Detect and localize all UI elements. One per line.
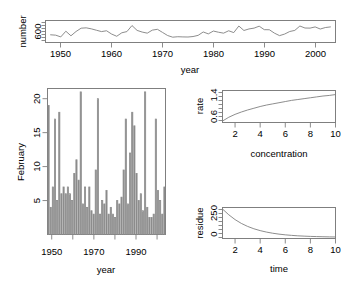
timeseries-xtick-label-1950: 1950 [50, 48, 71, 59]
rate-x-ticks [235, 123, 335, 128]
rate-xtick-label-4: 4 [258, 128, 263, 139]
february-bar [89, 187, 90, 235]
rate-xtick-label-6: 6 [283, 128, 288, 139]
february-bar [87, 207, 88, 234]
residue-y-ticks [219, 210, 223, 238]
february-bar [99, 214, 100, 234]
february-bar [121, 197, 122, 234]
residue-xtick-label-6: 6 [283, 244, 288, 255]
residue-ytick-label-250: 250 [208, 205, 219, 221]
february-bar [157, 190, 158, 234]
february-bar [50, 207, 51, 234]
r-multipanel-figure: 1950 1960 1970 1980 1990 2000 600 number… [0, 0, 351, 295]
timeseries-xtick-label-1970: 1970 [152, 48, 173, 59]
rate-y-ticks [219, 93, 223, 121]
rate-ytick-label-0-6: 0.6 [208, 110, 219, 123]
february-bar [48, 105, 49, 234]
february-bar [82, 204, 83, 235]
february-bar [151, 218, 152, 235]
residue-xtick-label-4: 4 [258, 244, 263, 255]
february-bars-group [48, 92, 165, 235]
february-bar [114, 218, 115, 235]
timeseries-x-ticks [61, 43, 316, 48]
february-xtick-label-1950: 1950 [41, 246, 62, 257]
residue-y-axis-title: residue [194, 207, 205, 238]
panel-residue-time: 2 4 6 8 10 0 250 residue time [175, 180, 351, 295]
rate-plot-frame [223, 91, 336, 123]
february-bar [160, 201, 161, 235]
february-bar [119, 204, 120, 235]
february-bar [65, 194, 66, 235]
february-bar [61, 194, 62, 235]
february-bar [108, 214, 109, 234]
february-y-axis-title: February [15, 143, 26, 181]
february-bar [134, 126, 135, 235]
february-bar [84, 187, 85, 235]
timeseries-y-axis-title: number [17, 15, 28, 47]
february-ytick-label-5: 5 [31, 198, 42, 203]
february-bar [110, 207, 111, 234]
february-bar [93, 214, 94, 234]
february-bar [106, 190, 107, 234]
residue-ytick-label-0: 0 [208, 231, 219, 236]
february-bar [149, 218, 150, 235]
timeseries-plot-frame [46, 21, 336, 43]
february-bar [80, 92, 81, 235]
february-bar [112, 214, 113, 234]
february-xtick-label-1970: 1970 [83, 246, 104, 257]
february-ytick-label-15: 15 [31, 127, 42, 138]
february-bar [123, 170, 124, 235]
rate-ytick-label-1-4: 1.4 [208, 88, 219, 101]
timeseries-data-line [51, 26, 331, 38]
february-bar [153, 214, 154, 234]
february-bar [74, 173, 75, 234]
february-ytick-label-20: 20 [31, 93, 42, 104]
february-bar [95, 170, 96, 235]
timeseries-x-axis-title: year [181, 64, 199, 75]
february-bar [164, 187, 165, 235]
february-bar [162, 214, 163, 234]
february-bar [59, 112, 60, 234]
february-bar [54, 119, 55, 234]
february-bar [132, 112, 133, 234]
residue-xtick-label-10: 10 [330, 244, 341, 255]
february-x-ticks [52, 235, 157, 240]
february-bar [117, 201, 118, 235]
residue-svg: 2 4 6 8 10 0 250 residue time [175, 180, 351, 295]
residue-x-axis-title: time [270, 263, 288, 274]
february-xtick-label-1990: 1990 [125, 246, 146, 257]
panel-rate-concentration: 2 4 6 8 10 0.6 1.4 rate concentration [175, 85, 351, 180]
february-bar [142, 211, 143, 235]
february-bar [138, 201, 139, 235]
residue-xtick-label-2: 2 [232, 244, 237, 255]
rate-xtick-label-2: 2 [232, 128, 237, 139]
rate-xtick-label-10: 10 [330, 128, 341, 139]
timeseries-ytick-label-600: 600 [32, 24, 43, 40]
february-bar [102, 201, 103, 235]
february-bar [91, 211, 92, 235]
february-bar [67, 187, 68, 235]
rate-data-curve [223, 95, 336, 121]
february-y-ticks [43, 99, 48, 201]
february-bar [155, 119, 156, 234]
february-svg: 5 10 15 20 1950 1970 1990 February year [0, 80, 180, 295]
february-bar [147, 207, 148, 234]
february-bar [127, 204, 128, 235]
february-bar [145, 92, 146, 235]
residue-xtick-label-8: 8 [308, 244, 313, 255]
february-bar [69, 194, 70, 235]
february-bar [140, 194, 141, 235]
february-bar [130, 153, 131, 234]
panel-february-barplot: 5 10 15 20 1950 1970 1990 February year [0, 80, 180, 295]
february-bar [125, 119, 126, 234]
rate-x-axis-title: concentration [250, 148, 307, 159]
february-ytick-label-10: 10 [31, 161, 42, 172]
february-bar [104, 204, 105, 235]
timeseries-xtick-label-2000: 2000 [305, 48, 326, 59]
february-bar [57, 201, 58, 235]
rate-xtick-label-8: 8 [308, 128, 313, 139]
timeseries-xtick-label-1980: 1980 [203, 48, 224, 59]
panel-timeseries-number-year: 1950 1960 1970 1980 1990 2000 600 number… [0, 0, 351, 80]
timeseries-svg: 1950 1960 1970 1980 1990 2000 600 number… [0, 0, 351, 80]
february-bar [63, 187, 64, 235]
